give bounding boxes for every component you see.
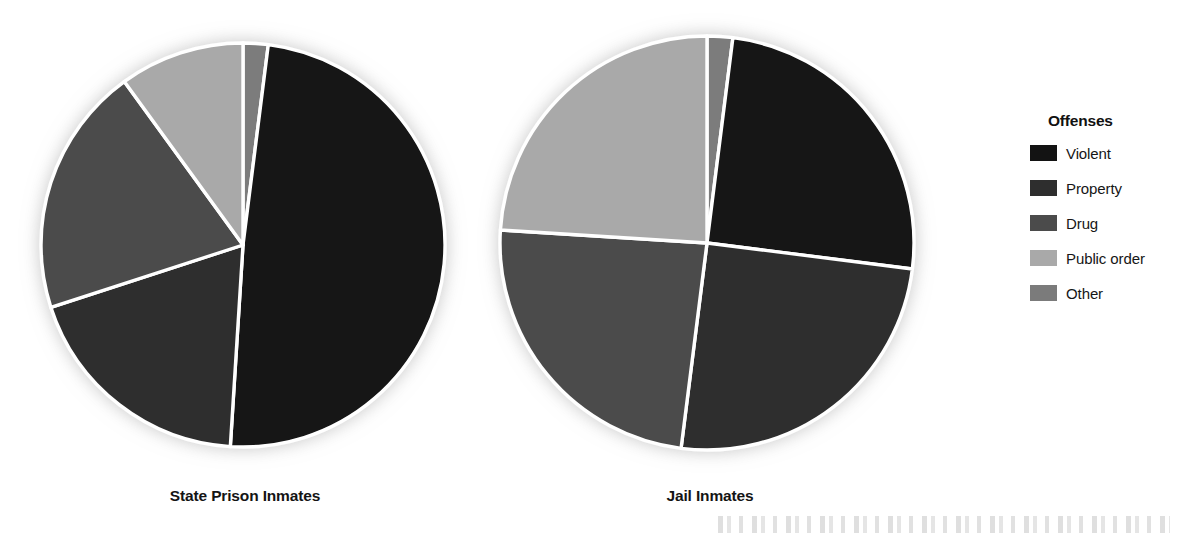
pie-caption-jail: Jail Inmates [460,487,960,505]
legend-swatch-icon [1030,145,1057,161]
pie-svg-jail [460,0,960,480]
pie-slices-jail [500,36,914,450]
scan-bleed-through-artifact [718,516,1170,533]
pie-svg-state-prison [0,0,490,480]
legend-item-label: Violent [1066,145,1111,162]
pie-chart-jail-inmates: Jail Inmates [460,0,960,480]
legend-item-drug: Drug [1030,211,1176,235]
legend: Offenses ViolentPropertyDrugPublic order… [1030,112,1176,316]
legend-item-label: Property [1066,180,1122,197]
pie-slice-violent [707,38,914,269]
legend-item-label: Other [1066,285,1103,302]
legend-swatch-icon [1030,285,1057,301]
pie-slice-drug [500,230,707,448]
legend-swatch-icon [1030,215,1057,231]
legend-title: Offenses [1048,112,1176,130]
pie-slice-violent [230,45,445,447]
legend-item-label: Drug [1066,215,1098,232]
legend-swatch-icon [1030,250,1057,266]
legend-entry-list: ViolentPropertyDrugPublic orderOther [1030,141,1176,305]
legend-swatch-icon [1030,180,1057,196]
pie-slice-public-order [500,36,707,243]
offenses-pie-figure: State Prison Inmates Jail Inmates Offens… [0,0,1178,537]
legend-item-violent: Violent [1030,141,1176,165]
pie-slice-property [681,243,912,450]
legend-item-property: Property [1030,176,1176,200]
pie-caption-state-prison: State Prison Inmates [0,487,490,505]
legend-item-label: Public order [1066,250,1145,267]
pie-slices-state [41,43,445,447]
legend-item-other: Other [1030,281,1176,305]
legend-item-public-order: Public order [1030,246,1176,270]
pie-chart-state-prison-inmates: State Prison Inmates [0,0,490,480]
